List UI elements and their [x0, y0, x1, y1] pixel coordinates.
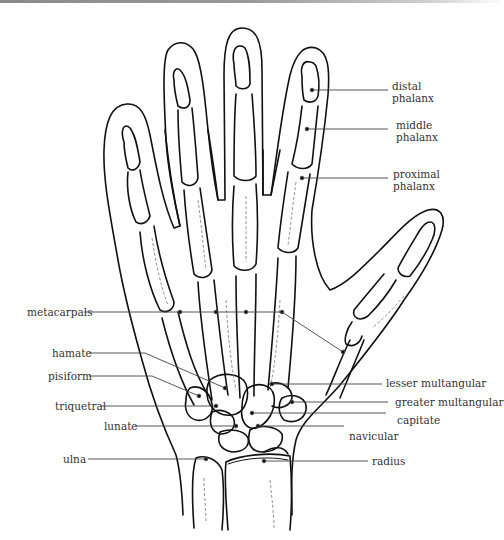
label-text: distal: [392, 80, 434, 92]
label-lesser-multangular: lesser multangular: [386, 377, 486, 389]
label-middle-phalanx: middle phalanx: [396, 119, 438, 143]
label-lunate: lunate: [104, 420, 138, 432]
label-text: phalanx: [392, 92, 434, 104]
label-navicular: navicular: [349, 430, 399, 442]
label-pisiform: pisiform: [48, 370, 92, 382]
label-proximal-phalanx: proximal phalanx: [393, 168, 440, 192]
label-text: phalanx: [393, 180, 440, 192]
label-text: phalanx: [396, 131, 438, 143]
label-capitate: capitate: [397, 414, 440, 426]
label-metacarpals: metacarpals: [27, 306, 93, 318]
label-text: proximal: [393, 168, 440, 180]
label-radius: radius: [372, 455, 406, 467]
label-triquetral: triquetral: [55, 400, 106, 412]
label-text: middle: [396, 119, 438, 131]
label-hamate: hamate: [52, 347, 92, 359]
label-distal-phalanx: distal phalanx: [392, 80, 434, 104]
label-greater-multangular: greater multangular: [395, 396, 503, 408]
label-ulna: ulna: [63, 453, 86, 465]
